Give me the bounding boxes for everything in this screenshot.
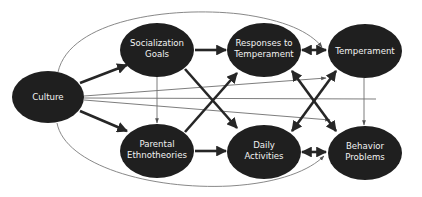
arrow-culture-to-parental xyxy=(80,111,127,131)
node-behavior-problems: Behavior Problems xyxy=(328,126,402,180)
node-socialization-goals-label-1: Socialization xyxy=(130,38,184,48)
node-socialization-goals-label-2: Goals xyxy=(145,49,170,59)
line-culture-to-behavior-problems-mid xyxy=(84,98,376,99)
arrow-culture-to-socialization xyxy=(80,65,127,83)
node-culture-label: Culture xyxy=(32,92,63,102)
node-responses-to-temperament: Responses to Temperament xyxy=(227,23,301,77)
node-daily-activities-label-1: Daily xyxy=(253,140,275,150)
node-parental-ethnotheories: Parental Ethnotheories xyxy=(120,124,194,178)
node-parental-ethnotheories-label-2: Ethnotheories xyxy=(127,150,188,160)
node-behavior-problems-label-2: Problems xyxy=(345,152,385,162)
node-behavior-problems-label-1: Behavior xyxy=(346,141,385,151)
node-culture: Culture xyxy=(12,71,84,123)
node-responses-to-temperament-label-2: Temperament xyxy=(233,49,294,59)
arrow-parental-to-responses xyxy=(185,73,237,132)
node-temperament-label: Temperament xyxy=(334,46,395,56)
line-culture-to-behavior-problems xyxy=(84,100,330,120)
node-responses-to-temperament-label-1: Responses to xyxy=(235,38,292,48)
node-parental-ethnotheories-label-1: Parental xyxy=(139,139,174,149)
node-temperament: Temperament xyxy=(328,24,402,78)
path-model-diagram: Culture Socialization Goals Parental Eth… xyxy=(0,0,422,197)
node-daily-activities: Daily Activities xyxy=(227,125,301,179)
node-socialization-goals: Socialization Goals xyxy=(120,23,194,77)
node-daily-activities-label-2: Activities xyxy=(244,151,284,161)
